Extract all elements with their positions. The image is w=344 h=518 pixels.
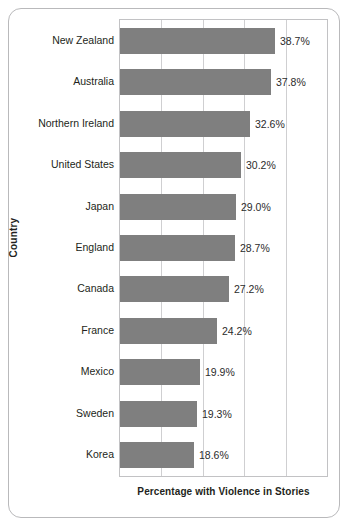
bar[interactable] bbox=[120, 401, 197, 427]
category-axis-labels: New ZealandAustraliaNorthern IrelandUnit… bbox=[0, 19, 114, 477]
category-label: Mexico bbox=[81, 358, 114, 384]
bar-value-label: 37.8% bbox=[271, 69, 306, 95]
bar-row: 29.0% bbox=[120, 194, 327, 220]
bar[interactable] bbox=[120, 111, 250, 137]
x-axis-title: Percentage with Violence in Stories bbox=[119, 486, 328, 497]
bar[interactable] bbox=[120, 152, 241, 178]
category-label: United States bbox=[51, 151, 114, 177]
bar-row: 19.3% bbox=[120, 401, 327, 427]
bar-row: 24.2% bbox=[120, 318, 327, 344]
bars-layer: 38.7%37.8%32.6%30.2%29.0%28.7%27.2%24.2%… bbox=[120, 20, 327, 476]
category-label: Sweden bbox=[76, 400, 114, 426]
bar[interactable] bbox=[120, 69, 271, 95]
bar-value-label: 38.7% bbox=[275, 28, 310, 54]
category-label: Japan bbox=[85, 193, 114, 219]
category-label: Korea bbox=[86, 441, 114, 467]
bar-row: 19.9% bbox=[120, 359, 327, 385]
bar[interactable] bbox=[120, 194, 236, 220]
bar-value-label: 27.2% bbox=[229, 276, 264, 302]
bar[interactable] bbox=[120, 28, 275, 54]
bar-value-label: 19.9% bbox=[200, 359, 235, 385]
bar-value-label: 32.6% bbox=[250, 111, 285, 137]
bar[interactable] bbox=[120, 359, 200, 385]
plot-area: 38.7%37.8%32.6%30.2%29.0%28.7%27.2%24.2%… bbox=[119, 19, 328, 477]
bar-row: 37.8% bbox=[120, 69, 327, 95]
bar[interactable] bbox=[120, 318, 217, 344]
category-label: Northern Ireland bbox=[38, 110, 114, 136]
bar-row: 27.2% bbox=[120, 276, 327, 302]
bar-row: 28.7% bbox=[120, 235, 327, 261]
category-label: New Zealand bbox=[52, 27, 114, 53]
bar-value-label: 24.2% bbox=[217, 318, 252, 344]
category-label: Australia bbox=[73, 68, 114, 94]
bar-row: 18.6% bbox=[120, 442, 327, 468]
bar-value-label: 19.3% bbox=[197, 401, 232, 427]
bar-value-label: 28.7% bbox=[235, 235, 270, 261]
bar-row: 30.2% bbox=[120, 152, 327, 178]
bar-value-label: 29.0% bbox=[236, 194, 271, 220]
bar-row: 32.6% bbox=[120, 111, 327, 137]
bar[interactable] bbox=[120, 235, 235, 261]
category-label: England bbox=[75, 234, 114, 260]
bar-value-label: 30.2% bbox=[241, 152, 276, 178]
category-label: Canada bbox=[77, 275, 114, 301]
bar-row: 38.7% bbox=[120, 28, 327, 54]
bar[interactable] bbox=[120, 442, 194, 468]
bar[interactable] bbox=[120, 276, 229, 302]
bar-value-label: 18.6% bbox=[194, 442, 229, 468]
category-label: France bbox=[81, 317, 114, 343]
